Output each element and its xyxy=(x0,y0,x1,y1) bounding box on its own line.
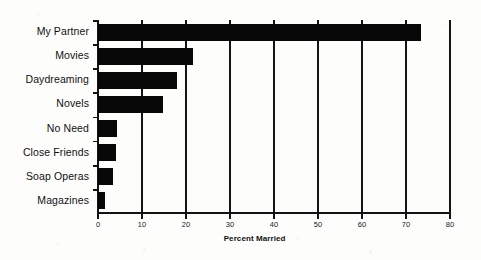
x-tick-10 xyxy=(141,214,143,219)
y-tick xyxy=(93,165,98,167)
y-tick xyxy=(93,44,98,46)
x-tick-0 xyxy=(97,214,99,219)
category-label-novels: Novels xyxy=(0,97,89,109)
category-label-movies: Movies xyxy=(0,49,89,61)
bar-row xyxy=(98,72,450,89)
x-tick-60 xyxy=(361,214,363,219)
category-label-close-friends: Close Friends xyxy=(0,146,89,158)
x-tick-label-80: 80 xyxy=(446,220,454,229)
bar-row xyxy=(98,96,450,113)
bar-chart: My PartnerMoviesDaydreamingNovelsNo Need… xyxy=(0,0,481,260)
x-tick-70 xyxy=(405,214,407,219)
plot-area xyxy=(98,20,450,213)
category-label-magazines: Magazines xyxy=(0,194,89,206)
x-tick-label-20: 20 xyxy=(182,220,190,229)
y-tick xyxy=(93,92,98,94)
bar-row xyxy=(98,24,450,41)
bar xyxy=(98,168,113,185)
y-tick xyxy=(93,141,98,143)
category-label-no-need: No Need xyxy=(0,122,89,134)
category-label-my-partner: My Partner xyxy=(0,25,89,37)
bar xyxy=(98,72,177,89)
x-tick-label-60: 60 xyxy=(358,220,366,229)
x-tick-50 xyxy=(317,214,319,219)
x-tick-label-10: 10 xyxy=(138,220,146,229)
y-tick xyxy=(93,189,98,191)
bar xyxy=(98,96,163,113)
category-label-soap-operas: Soap Operas xyxy=(0,170,89,182)
category-label-daydreaming: Daydreaming xyxy=(0,73,89,85)
bar-row xyxy=(98,144,450,161)
x-tick-30 xyxy=(229,214,231,219)
y-tick xyxy=(93,68,98,70)
x-tick-label-50: 50 xyxy=(314,220,322,229)
y-tick xyxy=(93,20,98,22)
bar-row xyxy=(98,168,450,185)
x-tick-label-30: 30 xyxy=(226,220,234,229)
bar-row xyxy=(98,120,450,137)
x-tick-20 xyxy=(185,214,187,219)
bar xyxy=(98,24,421,41)
x-axis-label: Percent Married xyxy=(224,234,286,243)
x-tick-label-70: 70 xyxy=(402,220,410,229)
x-tick-label-40: 40 xyxy=(270,220,278,229)
bar xyxy=(98,144,116,161)
x-tick-80 xyxy=(449,214,451,219)
y-tick xyxy=(93,117,98,119)
bar-row xyxy=(98,48,450,65)
bar xyxy=(98,192,105,209)
x-tick-40 xyxy=(273,214,275,219)
bar-row xyxy=(98,192,450,209)
bar xyxy=(98,48,193,65)
x-tick-label-0: 0 xyxy=(96,220,100,229)
bar xyxy=(98,120,117,137)
